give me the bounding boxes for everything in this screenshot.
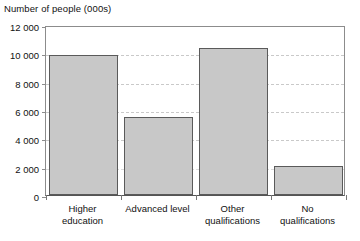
- y-axis-tick-label: 8 000: [15, 78, 39, 89]
- chart-title: Number of people (000s): [4, 3, 111, 14]
- y-axis-tick-label: 4 000: [15, 135, 39, 146]
- x-axis-label: Otherqualifications: [195, 203, 270, 226]
- x-axis-label: Advanced level: [120, 203, 195, 215]
- x-axis-label-line: Other: [195, 203, 270, 215]
- x-axis-label-line: Higher: [45, 203, 120, 215]
- bar-chart: Number of people (000s) 12 00010 0008 00…: [0, 0, 360, 241]
- y-axis-tick-label: 10 000: [10, 50, 39, 61]
- x-axis-tick-mark: [46, 195, 47, 200]
- x-axis-label-line: qualifications: [195, 215, 270, 227]
- x-axis-label: Noqualifications: [270, 203, 345, 226]
- x-axis-tick-mark: [346, 195, 347, 200]
- y-axis-tick-label: 2 000: [15, 163, 39, 174]
- y-axis-tick-label: 12 000: [10, 22, 39, 33]
- bar: [199, 48, 268, 195]
- bar: [124, 117, 193, 195]
- x-axis-tick-mark: [196, 195, 197, 200]
- x-axis-label-line: qualifications: [270, 215, 345, 227]
- x-axis-label-line: Advanced level: [120, 203, 195, 215]
- x-axis-label-line: No: [270, 203, 345, 215]
- y-axis-tick-label: 0: [34, 192, 39, 203]
- x-axis-label: Highereducation: [45, 203, 120, 226]
- bars-layer: [46, 27, 344, 195]
- plot-area: 12 00010 0008 0006 0004 0002 0000: [45, 26, 345, 196]
- x-axis-tick-mark: [121, 195, 122, 200]
- bar: [49, 55, 118, 195]
- y-axis-tick-label: 6 000: [15, 107, 39, 118]
- bar: [274, 166, 343, 195]
- x-axis-tick-mark: [271, 195, 272, 200]
- x-axis-label-line: education: [45, 215, 120, 227]
